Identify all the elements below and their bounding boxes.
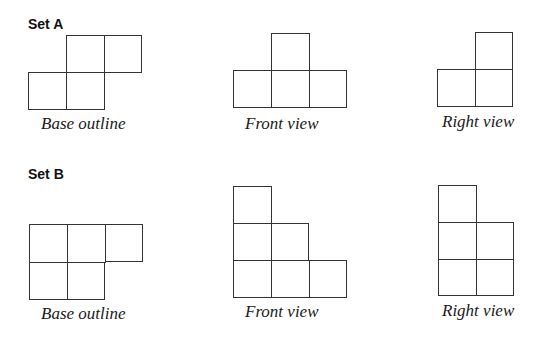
grid-cell: [233, 70, 272, 108]
grid-cell: [438, 222, 477, 260]
grid-cell: [309, 70, 347, 108]
view-label: Right view: [442, 302, 514, 319]
grid-cell: [67, 262, 105, 300]
grid-cell: [271, 223, 309, 261]
grid-cell: [29, 262, 68, 300]
view-label: Base outline: [41, 305, 126, 322]
grid-cell: [438, 185, 477, 223]
view-label: Front view: [245, 303, 319, 320]
view-label: Right view: [442, 113, 514, 130]
view-label: Front view: [245, 115, 319, 132]
grid-cell: [476, 222, 514, 260]
grid-cell: [66, 35, 105, 73]
grid-cell: [475, 69, 513, 107]
grid-cell: [233, 223, 272, 261]
grid-cell: [29, 224, 68, 263]
grid-cell: [233, 186, 272, 224]
grid-cell: [438, 259, 477, 296]
grid-cell: [67, 224, 106, 263]
set-a-title: Set A: [28, 17, 63, 31]
grid-cell: [476, 259, 514, 296]
grid-cell: [271, 260, 310, 298]
grid-cell: [233, 260, 272, 298]
grid-cell: [104, 35, 142, 73]
view-label: Base outline: [41, 115, 126, 132]
grid-cell: [309, 260, 347, 298]
set-b-title: Set B: [28, 167, 64, 181]
grid-cell: [437, 69, 476, 107]
grid-cell: [475, 32, 513, 70]
grid-cell: [66, 72, 105, 110]
grid-cell: [28, 72, 67, 110]
grid-cell: [271, 70, 310, 108]
grid-cell: [271, 33, 310, 71]
grid-cell: [105, 224, 143, 262]
